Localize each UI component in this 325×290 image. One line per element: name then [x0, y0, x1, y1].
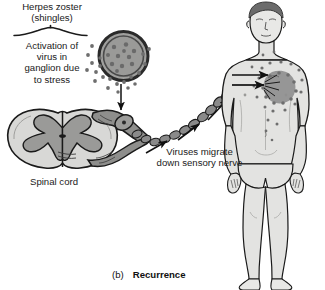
- label-herpes-zoster: Herpes zoster (shingles): [0, 1, 104, 23]
- label-spinal-cord: Spinal cord: [8, 176, 100, 187]
- curly-brace-icon: [14, 25, 87, 35]
- label-viruses-migrate: Viruses migrate down sensory nerve: [142, 146, 257, 168]
- caption-letter: (b): [112, 269, 124, 280]
- figure-caption: (b)Recurrence: [112, 269, 186, 280]
- label-activation-of-virus: Activation of virus in ganglion due to s…: [2, 40, 102, 85]
- caption-title: Recurrence: [133, 269, 186, 280]
- figure-recurrence-shingles: Herpes zoster (shingles) Activation of v…: [0, 0, 325, 290]
